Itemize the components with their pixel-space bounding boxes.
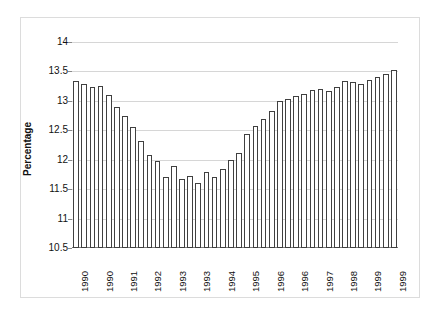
bar: [285, 99, 291, 248]
y-tick-label: 14: [26, 37, 68, 47]
bar: [253, 126, 259, 248]
gridline: [72, 42, 398, 43]
bar: [244, 134, 250, 248]
bar: [318, 89, 324, 248]
bar: [375, 77, 381, 248]
gridline: [72, 130, 398, 131]
bar: [212, 177, 218, 248]
y-tick-mark: [68, 248, 72, 249]
gridline: [72, 101, 398, 102]
bar: [138, 141, 144, 248]
x-tick-label: 1990: [80, 271, 89, 292]
bar: [122, 116, 128, 248]
y-tick-label: 10.5: [26, 243, 68, 253]
bar: [310, 90, 316, 248]
x-tick-label: 1993: [202, 271, 211, 292]
bar: [220, 169, 226, 248]
bar: [179, 179, 185, 248]
x-tick-label: 1990: [105, 271, 114, 292]
y-tick-label: 12: [26, 155, 68, 165]
bar: [358, 84, 364, 248]
bar: [163, 177, 169, 248]
bar: [130, 127, 136, 248]
bar: [236, 153, 242, 248]
x-axis-line: [72, 247, 398, 248]
gridline: [72, 160, 398, 161]
bar: [367, 80, 373, 248]
bar: [195, 183, 201, 248]
bar: [187, 176, 193, 248]
y-axis-tick-labels: 10.51111.51212.51313.514: [24, 42, 68, 248]
bar: [326, 91, 332, 248]
bar: [334, 87, 340, 248]
gridline: [72, 189, 398, 190]
bar: [350, 82, 356, 248]
y-tick-label: 12.5: [26, 125, 68, 135]
bar: [277, 101, 283, 248]
x-tick-label: 1999: [398, 271, 407, 292]
x-tick-label: 1991: [129, 271, 138, 292]
chart-screenshot: Percentage 10.51111.51212.51313.514 1990…: [0, 0, 440, 320]
bar: [155, 161, 161, 248]
x-tick-label: 1992: [153, 271, 162, 292]
x-tick-label: 1994: [227, 271, 236, 292]
bar: [81, 84, 87, 248]
bar: [114, 107, 120, 248]
y-tick-label: 13: [26, 96, 68, 106]
x-tick-label: 1998: [349, 271, 358, 292]
x-tick-label: 1999: [373, 271, 382, 292]
bar: [391, 70, 397, 248]
bar: [73, 81, 79, 248]
bar: [342, 81, 348, 248]
bar: [301, 94, 307, 248]
x-tick-label: 1995: [251, 271, 260, 292]
y-tick-label: 11.5: [26, 184, 68, 194]
gridline: [72, 71, 398, 72]
bar: [98, 86, 104, 248]
bar: [383, 74, 389, 248]
y-tick-label: 11: [26, 214, 68, 224]
bar: [106, 95, 112, 248]
bar: [261, 119, 267, 248]
bars-and-gridlines: [72, 42, 398, 248]
bar: [228, 160, 234, 248]
x-tick-label: 1997: [325, 271, 334, 292]
bar: [147, 155, 153, 248]
bar: [204, 172, 210, 248]
gridline: [72, 219, 398, 220]
bar: [293, 96, 299, 248]
x-tick-label: 1996: [300, 271, 309, 292]
bar: [269, 111, 275, 248]
bar: [90, 87, 96, 248]
x-tick-label: 1993: [178, 271, 187, 292]
y-tick-label: 13.5: [26, 66, 68, 76]
x-axis-tick-labels: 1990199019911992199319931994199519961996…: [72, 252, 398, 296]
plot-area: [72, 42, 398, 248]
x-tick-label: 1996: [276, 271, 285, 292]
bar: [171, 166, 177, 248]
